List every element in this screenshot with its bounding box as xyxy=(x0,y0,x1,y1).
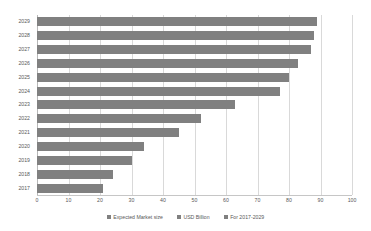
bar xyxy=(37,142,144,151)
x-axis-tick-label: 0 xyxy=(36,197,39,203)
legend-label: USD Billion xyxy=(183,214,209,220)
x-axis-tick-label: 10 xyxy=(66,197,72,203)
bar xyxy=(37,17,317,26)
y-axis-tick-label: 2017 xyxy=(0,184,34,193)
bar-row xyxy=(37,100,352,109)
bar-row xyxy=(37,170,352,179)
y-axis-tick-label: 2018 xyxy=(0,170,34,179)
y-axis-tick-label: 2025 xyxy=(0,73,34,82)
y-axis-tick-label: 2029 xyxy=(0,17,34,26)
legend-item[interactable]: For 2017-2029 xyxy=(224,214,265,220)
y-axis-tick-label: 2021 xyxy=(0,128,34,137)
gridline xyxy=(352,15,353,195)
legend-swatch-icon xyxy=(177,215,181,219)
bar-row xyxy=(37,128,352,137)
bar xyxy=(37,100,235,109)
legend-label: For 2017-2029 xyxy=(230,214,264,220)
bar-row xyxy=(37,114,352,123)
bar-row xyxy=(37,45,352,54)
bar-row xyxy=(37,73,352,82)
bar xyxy=(37,170,113,179)
bar-row xyxy=(37,142,352,151)
legend-swatch-icon xyxy=(107,215,111,219)
bar xyxy=(37,73,289,82)
x-axis-tick-label: 50 xyxy=(192,197,198,203)
legend-item[interactable]: USD Billion xyxy=(177,214,210,220)
bar xyxy=(37,59,298,68)
bars-container xyxy=(37,15,352,195)
legend-swatch-icon xyxy=(224,215,228,219)
x-axis-tick-label: 20 xyxy=(97,197,103,203)
bar-row xyxy=(37,17,352,26)
x-axis-tick-label: 70 xyxy=(255,197,261,203)
bar xyxy=(37,114,201,123)
bar-row xyxy=(37,59,352,68)
bar-row xyxy=(37,31,352,40)
y-axis-tick-label: 2023 xyxy=(0,100,34,109)
bar-chart: 2029 2028 2027 2026 2025 2024 2023 2022 … xyxy=(0,0,371,231)
bar xyxy=(37,184,103,193)
bar xyxy=(37,45,311,54)
y-axis-tick-label: 2027 xyxy=(0,45,34,54)
x-axis-tick-label: 80 xyxy=(286,197,292,203)
y-axis-tick-label: 2019 xyxy=(0,156,34,165)
x-axis-tick-label: 60 xyxy=(223,197,229,203)
chart-legend: Expected Market sizeUSD BillionFor 2017-… xyxy=(0,210,371,224)
y-axis-tick-label: 2024 xyxy=(0,87,34,96)
bar-row xyxy=(37,184,352,193)
legend-label: Expected Market size xyxy=(113,214,163,220)
y-axis-tick-label: 2022 xyxy=(0,114,34,123)
bar-row xyxy=(37,156,352,165)
y-axis-tick-label: 2020 xyxy=(0,142,34,151)
y-axis-tick-label: 2028 xyxy=(0,31,34,40)
bar-row xyxy=(37,87,352,96)
y-axis-tick-label: 2026 xyxy=(0,59,34,68)
bar xyxy=(37,31,314,40)
x-axis-tick-label: 100 xyxy=(348,197,357,203)
plot-inner xyxy=(37,15,352,195)
x-axis-tick-label: 30 xyxy=(129,197,135,203)
x-axis-labels: 0102030405060708090100 xyxy=(37,197,352,207)
bar xyxy=(37,128,179,137)
legend-item[interactable]: Expected Market size xyxy=(107,214,163,220)
x-axis-tick-label: 40 xyxy=(160,197,166,203)
bar xyxy=(37,156,132,165)
bar xyxy=(37,87,280,96)
x-axis-tick-label: 90 xyxy=(318,197,324,203)
plot-area: 2029 2028 2027 2026 2025 2024 2023 2022 … xyxy=(0,0,371,208)
x-axis-line xyxy=(37,195,352,196)
y-axis-labels: 2029 2028 2027 2026 2025 2024 2023 2022 … xyxy=(0,15,34,195)
